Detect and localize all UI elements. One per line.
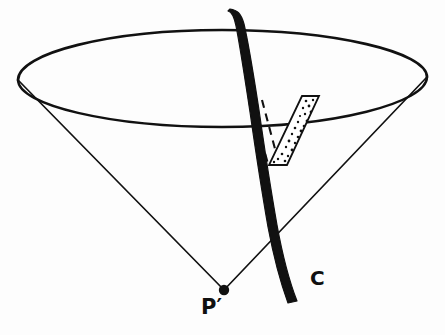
figure-canvas: P′ C <box>0 0 445 335</box>
cone-apex-dot <box>219 285 229 295</box>
cone-apex-point-label: P′ <box>201 297 222 318</box>
curve-label: C <box>310 268 325 288</box>
cone-diagram-svg <box>0 0 445 335</box>
figure-background <box>0 0 445 335</box>
